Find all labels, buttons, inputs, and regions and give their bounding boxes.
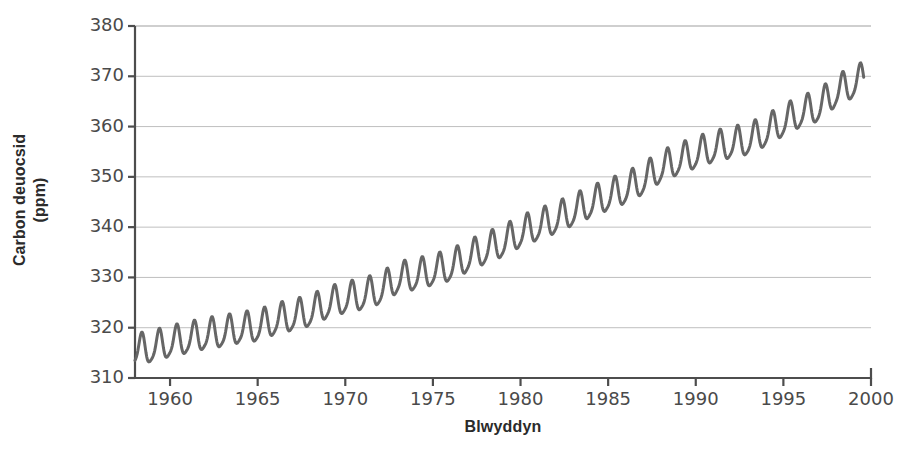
axis-frame [135,26,871,378]
axis-ticks [128,26,871,386]
plot-area [0,0,897,459]
gridlines [135,26,871,328]
co2-series-line [135,63,864,362]
chart-figure: Carbon deuocsid (ppm) Blwyddyn 310320330… [0,0,897,459]
